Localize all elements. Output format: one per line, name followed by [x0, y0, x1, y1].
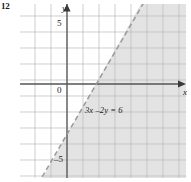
plot-area [20, 4, 186, 178]
y-tick-label-5: 5 [57, 19, 62, 28]
origin-label: 0 [57, 86, 62, 95]
coordinate-plane-svg [20, 4, 186, 178]
y-tick-label-negative-5: –5 [54, 155, 63, 164]
graph-figure: 12 [0, 0, 191, 182]
x-axis-label: x [183, 88, 187, 97]
y-axis-label: y [62, 4, 66, 13]
equation-label: 3x –2y = 6 [85, 106, 123, 115]
question-number: 12 [1, 1, 10, 11]
